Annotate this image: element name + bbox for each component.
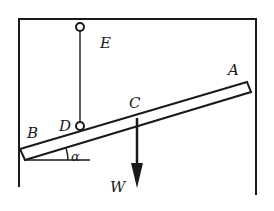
label-C: C — [129, 94, 141, 112]
label-B: B — [26, 124, 38, 142]
pivot-E-icon — [76, 23, 84, 31]
label-A: A — [226, 61, 239, 79]
pivot-D-icon — [76, 122, 84, 130]
diagram-canvas: A B C D E W α — [0, 0, 274, 211]
label-alpha: α — [71, 149, 80, 164]
label-E: E — [99, 34, 111, 52]
label-D: D — [58, 117, 71, 135]
label-W: W — [110, 178, 127, 196]
